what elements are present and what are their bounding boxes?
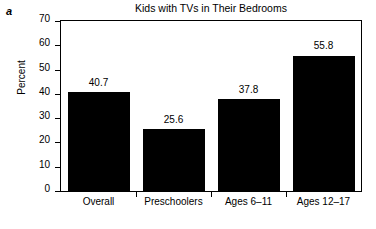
bar-value-label: 37.8 — [219, 85, 279, 95]
bar-value-label: 55.8 — [294, 41, 354, 51]
y-tick: 50 — [0, 70, 60, 71]
x-category-label: Ages 12–17 — [276, 197, 372, 207]
y-tick-mark — [55, 45, 60, 46]
bar-value-label: 25.6 — [144, 115, 204, 125]
y-tick-label: 40 — [39, 87, 50, 97]
y-tick-mark — [55, 191, 60, 192]
chart-title: Kids with TVs in Their Bedrooms — [60, 2, 362, 15]
figure: a Kids with TVs in Their Bedrooms Percen… — [0, 0, 376, 229]
y-tick-mark — [55, 94, 60, 95]
y-tick-label: 0 — [44, 184, 50, 194]
y-tick: 20 — [0, 142, 60, 143]
y-tick-label: 50 — [39, 63, 50, 73]
y-tick: 40 — [0, 94, 60, 95]
y-tick-mark — [55, 118, 60, 119]
bar — [293, 56, 355, 192]
y-tick-label: 30 — [39, 111, 50, 121]
y-tick: 30 — [0, 118, 60, 119]
y-tick: 10 — [0, 167, 60, 168]
y-tick-mark — [55, 21, 60, 22]
y-tick-label: 60 — [39, 38, 50, 48]
y-tick-label: 10 — [39, 160, 50, 170]
bar — [68, 92, 130, 191]
bar — [218, 99, 280, 191]
y-tick: 0 — [0, 191, 60, 192]
y-tick-mark — [55, 167, 60, 168]
y-axis-label: Percent — [16, 43, 27, 113]
panel-letter: a — [6, 6, 12, 17]
bar-value-label: 40.7 — [69, 78, 129, 88]
y-tick-mark — [55, 70, 60, 71]
y-tick: 70 — [0, 21, 60, 22]
y-tick-label: 70 — [39, 14, 50, 24]
y-tick: 60 — [0, 45, 60, 46]
bar — [143, 129, 205, 191]
y-tick-label: 20 — [39, 135, 50, 145]
y-tick-mark — [55, 142, 60, 143]
